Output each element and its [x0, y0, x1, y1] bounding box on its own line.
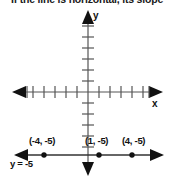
plotted-point — [129, 152, 134, 157]
line-equation-label: y = -5 — [10, 158, 33, 169]
point-label: (4, -5) — [122, 135, 145, 146]
graphed-line-group — [14, 149, 164, 161]
x-axis-left-arrow-icon — [12, 86, 26, 98]
graph-svg — [0, 0, 174, 177]
x-axis-right-arrow-icon — [149, 86, 163, 98]
graph-canvas — [0, 0, 174, 177]
plotted-point — [96, 152, 101, 157]
point-label: (1, -5) — [85, 135, 108, 146]
plotted-point — [41, 152, 46, 157]
x-axis-label: x — [152, 98, 158, 109]
coordinate-plane-figure: If the line is horizontal, its slope — [0, 0, 174, 177]
y-axis-group — [82, 10, 94, 176]
point-label: (-4, -5) — [29, 135, 55, 146]
graphed-line-right-arrow-icon — [150, 149, 164, 161]
y-axis-down-arrow-icon — [82, 162, 94, 176]
y-axis-label: y — [93, 10, 99, 21]
